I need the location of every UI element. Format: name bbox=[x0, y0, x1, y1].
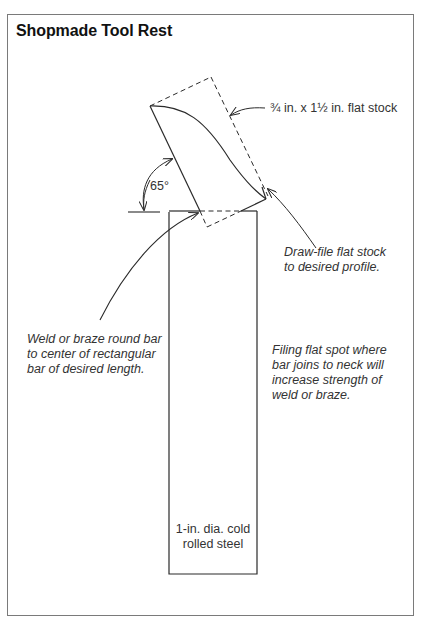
flat-stock-leader-arrow bbox=[231, 108, 265, 115]
flat-stock-dashed-outline bbox=[150, 77, 268, 227]
filing-annotation: Filing flat spot where bar joins to neck… bbox=[272, 343, 387, 403]
flat-stock-annotation: ¾ in. x 1½ in. flat stock bbox=[270, 101, 397, 116]
draw-file-leader-arrow bbox=[268, 189, 316, 248]
draw-file-annotation: Draw-file flat stock to desired profile. bbox=[284, 245, 386, 275]
tool-rest-profile bbox=[150, 106, 266, 211]
steel-annotation: 1-in. dia. cold rolled steel bbox=[170, 522, 256, 552]
round-bar-rectangle bbox=[169, 211, 257, 574]
weld-annotation: Weld or braze round bar to center of rec… bbox=[27, 332, 162, 377]
angle-label: 65° bbox=[150, 179, 169, 194]
weld-leader-arrow bbox=[100, 213, 198, 320]
